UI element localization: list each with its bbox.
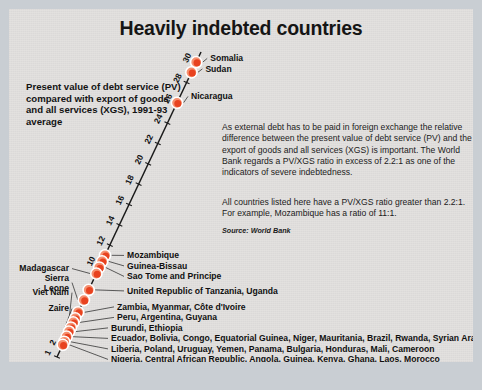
point-label: Somalia: [210, 53, 243, 63]
axis-tick-label: 16: [113, 193, 126, 206]
data-point-marker: [78, 294, 89, 305]
leader-line: [198, 69, 203, 72]
data-point-marker: [91, 268, 102, 279]
point-label: United Republic of Tanzania, Uganda: [127, 286, 278, 296]
leader-line: [72, 283, 78, 301]
point-label: Sao Tome and Principe: [127, 271, 222, 281]
data-point-marker: [57, 339, 68, 350]
point-label: Guinea-Bissau: [127, 261, 187, 271]
infographic-canvas: Heavily indebted countries Present value…: [0, 0, 482, 390]
chart-panel: Heavily indebted countries Present value…: [9, 9, 473, 362]
leader-line: [95, 290, 124, 291]
data-point-marker: [171, 97, 182, 108]
point-label-group: SomaliaSudanNicaraguaMozambiqueGuinea-Bi…: [19, 53, 473, 362]
point-label: Liberia, Poland, Uruguay, Yemen, Panama,…: [111, 344, 434, 354]
axis-tick-label: 18: [123, 173, 136, 186]
point-label: Nigeria, Central African Republic, Angol…: [111, 354, 440, 362]
point-label: Mozambique: [127, 250, 179, 260]
leader-line: [69, 345, 108, 360]
point-label: Viet Nam: [32, 287, 69, 297]
leader-line: [184, 96, 189, 102]
axis-tick-label: 1: [42, 348, 53, 357]
point-label: Zambia, Myanmar, Côte d'Ivoire: [117, 302, 246, 312]
point-label: Madagascar: [19, 263, 69, 273]
leader-line: [73, 337, 108, 339]
axis-tick-label: 22: [142, 132, 155, 145]
scatter-plot: 302826242220181614121021 SomaliaSudanNic…: [9, 9, 473, 362]
axis-tick-label: 20: [132, 153, 145, 166]
leader-line: [80, 317, 114, 322]
point-label: Zaire: [48, 303, 69, 313]
point-label: Ecuador, Bolivia, Congo, Equatorial Guin…: [111, 333, 473, 343]
axis-tick-label: 24: [152, 112, 165, 125]
point-label: Sudan: [205, 64, 231, 74]
axis-tick-label: 12: [94, 234, 107, 247]
point-label: Nicaragua: [191, 91, 233, 101]
axis-tick-label: 28: [171, 71, 184, 84]
leader-line: [72, 269, 90, 274]
leader-line: [76, 328, 109, 332]
leader-line: [85, 307, 114, 312]
axis-tick-label: 14: [104, 214, 117, 227]
point-label: Peru, Argentina, Guyana: [117, 312, 217, 322]
leader-line: [106, 268, 124, 277]
leader-line: [109, 261, 124, 266]
point-label: Burundi, Ethiopia: [111, 323, 183, 333]
leader-line: [203, 58, 208, 62]
data-point-marker: [186, 67, 197, 78]
